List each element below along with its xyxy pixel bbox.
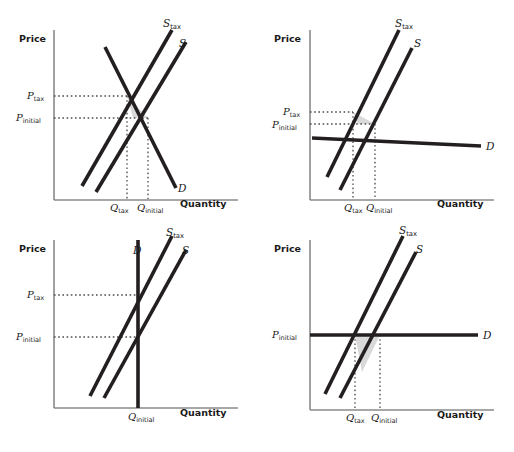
q-initial-label: Qinitial xyxy=(371,412,398,425)
supply-tax-curve xyxy=(327,30,399,177)
economics-tax-incidence-figure: Price Quantity Ptax Pinitial Qtax Qiniti… xyxy=(0,0,514,452)
demand-curve-label: D xyxy=(177,182,187,194)
p-tax-label: Ptax xyxy=(26,90,44,103)
p-initial-label: Pinitial xyxy=(15,112,41,125)
chart-panel-horizontal-demand: Price Quantity Pinitial Qtax Qinitial St… xyxy=(257,226,514,452)
x-axis-title: Quantity xyxy=(437,198,484,209)
supply-tax-curve xyxy=(90,236,172,396)
panel-3-svg: Price Quantity Ptax Pinitial Qinitial St… xyxy=(0,226,257,452)
x-axis-title: Quantity xyxy=(180,198,227,209)
y-axis-title: Price xyxy=(274,243,301,254)
supply-curve xyxy=(340,48,412,190)
q-initial-label: Qinitial xyxy=(128,411,155,424)
q-tax-label: Qtax xyxy=(346,412,365,425)
x-axis-title: Quantity xyxy=(180,407,227,418)
q-initial-label: Qinitial xyxy=(366,202,393,215)
panel-2-svg: Price Quantity Ptax Pinitial Qtax Qiniti… xyxy=(257,0,514,226)
x-axis-title: Quantity xyxy=(437,409,484,420)
supply-curve xyxy=(340,252,416,398)
p-initial-label: Pinitial xyxy=(271,119,297,132)
y-axis-title: Price xyxy=(19,33,46,44)
y-axis-title: Price xyxy=(274,33,301,44)
supply-tax-curve-label: Stax xyxy=(166,226,184,240)
demand-curve-label: D xyxy=(132,244,142,256)
supply-curve-label: S xyxy=(416,243,423,255)
supply-tax-curve-label: Stax xyxy=(395,17,413,31)
supply-tax-curve xyxy=(82,30,172,186)
supply-curve-label: S xyxy=(414,37,421,49)
chart-panel-elastic-demand-elastic-supply: Price Quantity Ptax Pinitial Qtax Qiniti… xyxy=(0,0,257,226)
q-tax-label: Qtax xyxy=(344,202,363,215)
panel-4-svg: Price Quantity Pinitial Qtax Qinitial St… xyxy=(257,226,514,452)
demand-curve-label: D xyxy=(485,140,495,152)
demand-curve xyxy=(105,47,176,188)
supply-curve xyxy=(104,250,186,398)
demand-curve xyxy=(312,138,481,146)
p-initial-label: Pinitial xyxy=(271,329,297,342)
supply-tax-curve-label: Stax xyxy=(163,17,181,31)
q-initial-label: Qinitial xyxy=(137,202,164,215)
y-axis-title: Price xyxy=(19,243,46,254)
supply-tax-curve xyxy=(325,236,403,394)
supply-curve-label: S xyxy=(179,37,186,49)
chart-panel-flat-demand-steep-supply: Price Quantity Ptax Pinitial Qtax Qiniti… xyxy=(257,0,514,226)
deadweight-loss-wedge xyxy=(355,335,380,372)
p-tax-label: Ptax xyxy=(282,106,300,119)
p-tax-label: Ptax xyxy=(26,289,44,302)
demand-curve-label: D xyxy=(482,329,492,341)
supply-curve-label: S xyxy=(182,244,189,256)
q-tax-label: Qtax xyxy=(110,202,129,215)
p-initial-label: Pinitial xyxy=(15,331,41,344)
panel-1-svg: Price Quantity Ptax Pinitial Qtax Qiniti… xyxy=(0,0,257,226)
chart-panel-vertical-demand: Price Quantity Ptax Pinitial Qinitial St… xyxy=(0,226,257,452)
